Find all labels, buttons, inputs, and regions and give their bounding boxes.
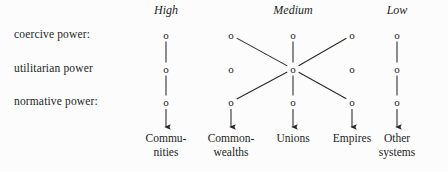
node-low-coercive: o bbox=[394, 30, 400, 41]
arrow-lines bbox=[166, 109, 397, 127]
node-med-hub-utilitarian: o bbox=[290, 64, 296, 75]
term-othersystems-line2: systems bbox=[379, 146, 415, 160]
connector-med-left-coercive-to-med-hub-utilitarian bbox=[237, 38, 288, 66]
term-commonwealths: Common-wealths bbox=[208, 132, 255, 159]
term-othersystems-line1: Other bbox=[384, 132, 410, 144]
node-low-utilitarian: o bbox=[394, 64, 400, 75]
connector-med-hub-utilitarian-to-med-left-normative bbox=[237, 72, 288, 99]
connector-med-hub-utilitarian-to-med-right-normative bbox=[299, 72, 347, 99]
node-low-normative: o bbox=[394, 97, 400, 108]
connector-lines bbox=[166, 38, 397, 99]
column-header-medium: Medium bbox=[273, 3, 312, 18]
node-high-normative: o bbox=[163, 97, 169, 108]
diagram-canvas: HighMediumLow coercive power:utilitarian… bbox=[0, 0, 448, 172]
node-med-left-normative: o bbox=[228, 97, 234, 108]
term-commonwealths-line2: wealths bbox=[208, 146, 255, 160]
node-med-right-normative: o bbox=[349, 97, 355, 108]
term-commonwealths-line1: Common- bbox=[208, 132, 255, 144]
node-med-left-utilitarian: o bbox=[228, 64, 234, 75]
node-high-utilitarian: o bbox=[163, 64, 169, 75]
connector-med-right-coercive-to-med-hub-utilitarian bbox=[299, 38, 347, 66]
row-label-1: utilitarian power bbox=[14, 62, 93, 74]
node-med-left-coercive: o bbox=[228, 30, 234, 41]
node-med-right-coercive: o bbox=[349, 30, 355, 41]
node-med-center-normative: o bbox=[290, 97, 296, 108]
term-empires-line1: Empires bbox=[333, 132, 371, 144]
term-communities-line1: Commu- bbox=[146, 132, 187, 144]
term-communities: Commu-nities bbox=[146, 132, 187, 159]
node-med-center-coercive: o bbox=[290, 30, 296, 41]
column-header-low: Low bbox=[387, 3, 408, 18]
term-empires: Empires bbox=[333, 132, 371, 146]
node-high-coercive: o bbox=[163, 30, 169, 41]
term-unions: Unions bbox=[276, 132, 309, 146]
term-unions-line1: Unions bbox=[276, 132, 309, 144]
column-header-high: High bbox=[154, 3, 178, 18]
node-med-right-utilitarian: o bbox=[349, 64, 355, 75]
term-communities-line2: nities bbox=[146, 146, 187, 160]
row-label-2: normative power: bbox=[14, 95, 98, 107]
term-othersystems: Othersystems bbox=[379, 132, 415, 159]
row-label-0: coercive power: bbox=[14, 28, 90, 40]
